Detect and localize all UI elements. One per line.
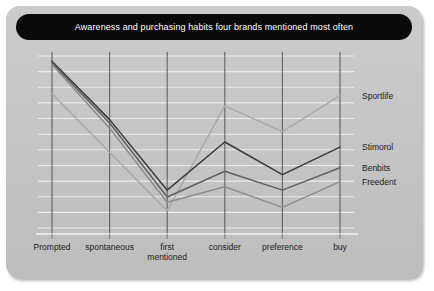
series-label-sportlife: Sportlife [362,91,393,101]
line-chart-svg [16,46,412,270]
screenshot-root: Awareness and purchasing habits four bra… [0,0,434,291]
chart-title-bar: Awareness and purchasing habits four bra… [16,14,412,40]
chart-title: Awareness and purchasing habits four bra… [75,22,353,32]
chart-area: Promptedspontaneousfirstmentionedconside… [16,46,412,270]
series-lines [52,61,340,211]
series-label-benbits: Benbits [362,163,390,173]
vertical-gridlines [52,52,340,234]
series-label-stimorol: Stimorol [362,142,393,152]
plot-area [16,46,412,270]
series-label-freedent: Freedent [362,177,396,187]
chart-panel: Awareness and purchasing habits four bra… [6,6,422,278]
series-line-freedent [52,65,340,208]
horizontal-gridlines [38,56,354,228]
series-line-stimorol [52,61,340,190]
series-line-benbits [52,63,340,197]
